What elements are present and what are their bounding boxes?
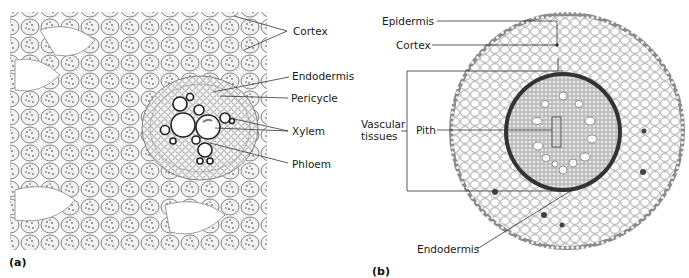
label-b-pith: Pith xyxy=(416,124,436,136)
panel-b-tag: (b) xyxy=(372,265,390,278)
label-b-vascular-line1: Vascular xyxy=(361,118,405,130)
label-a-pericycle: Pericycle xyxy=(291,92,338,104)
label-b-endodermis: Endodermis xyxy=(417,243,479,255)
label-a-xylem: Xylem xyxy=(292,125,325,137)
panel-a-tag: (a) xyxy=(9,256,26,269)
panel-a-tissue xyxy=(10,12,267,250)
label-a-phloem: Phloem xyxy=(292,158,331,170)
label-b-cortex: Cortex xyxy=(396,39,431,51)
label-b-vascular-line2: tissues xyxy=(361,130,398,142)
label-a-cortex: Cortex xyxy=(293,25,328,37)
panel-b-cross-section xyxy=(449,12,685,250)
label-a-endodermis: Endodermis xyxy=(292,70,354,82)
label-b-epidermis: Epidermis xyxy=(382,15,434,27)
